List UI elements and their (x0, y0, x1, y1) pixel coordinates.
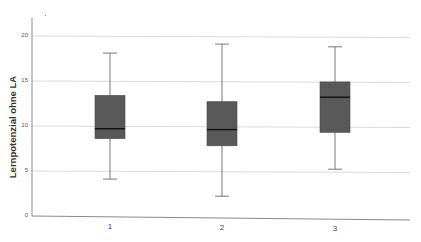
stray-mark (45, 15, 46, 16)
y-tick-0: 0 (8, 212, 28, 218)
y-tick-5: 5 (8, 167, 28, 173)
box-1-iqr (95, 95, 125, 138)
box-3-iqr (320, 82, 350, 132)
y-tick-15: 15 (8, 77, 28, 83)
x-axis-line (32, 216, 410, 220)
gridline-5 (32, 171, 410, 173)
x-tick-1: 1 (108, 222, 112, 231)
box-2-iqr (207, 102, 237, 146)
x-tick-3: 3 (333, 224, 337, 233)
gridline-15 (32, 81, 410, 83)
x-tick-2: 2 (220, 223, 224, 232)
chart-canvas (0, 0, 421, 242)
gridline-20 (32, 36, 410, 38)
y-tick-20: 20 (8, 32, 28, 38)
y-tick-10: 10 (8, 122, 28, 128)
